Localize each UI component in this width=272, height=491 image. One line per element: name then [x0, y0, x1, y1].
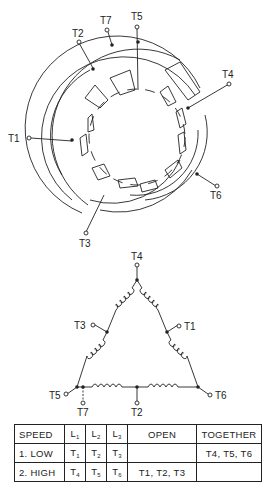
header-open: OPEN: [128, 425, 197, 444]
coil-bottom-right: [137, 384, 198, 387]
delta-label-t2: T2: [131, 407, 143, 418]
delta-connection-diagram: T4 T3 T1 T5 T7 T2 T6: [0, 240, 272, 420]
speed-connection-table: SPEED L1 L2 L3 OPEN TOGETHER 1. LOW T1 T…: [14, 424, 262, 482]
lead-t6: [197, 174, 216, 186]
coil-bottom-left: [77, 384, 137, 387]
node-dot: [135, 385, 139, 389]
lead-t2: [79, 43, 93, 68]
terminal-label-t7: T7: [100, 15, 112, 26]
stator-winding-diagram: T1 T2 T3 T4 T5 T6 T7: [0, 0, 272, 250]
node-dot: [196, 385, 200, 389]
terminal-t4-circle: [135, 263, 139, 267]
terminal-t7-circle: [105, 28, 109, 32]
terminal-label-t2: T2: [72, 28, 84, 39]
cell-l1: T4: [65, 463, 86, 482]
table-row: 2. HIGH T4 T5 T6 T1, T2, T3: [15, 463, 262, 482]
terminal-t3-circle: [84, 231, 88, 235]
pole-top: [110, 70, 135, 95]
delta-label-t5: T5: [49, 390, 61, 401]
node-dot: [165, 330, 169, 334]
winding-arc-5: [145, 115, 207, 200]
terminal-t2-circle: [77, 40, 81, 44]
terminal-t7-circle: [81, 401, 85, 405]
pole-bottom-left: [92, 164, 110, 180]
lead-t1: [167, 325, 178, 332]
junction-dot: [110, 43, 114, 47]
node-dot: [81, 385, 85, 389]
lead-t5: [137, 28, 138, 90]
lead-t3: [86, 195, 104, 232]
terminal-label-t5: T5: [131, 11, 143, 22]
table-row: 1. LOW T1 T2 T3 T4, T5, T6: [15, 444, 262, 463]
cell-together: [197, 463, 262, 482]
cell-l3: T6: [107, 463, 128, 482]
delta-label-t4: T4: [131, 251, 143, 262]
delta-label-t7: T7: [77, 407, 89, 418]
cell-l3: T3: [107, 444, 128, 463]
header-l1: L1: [65, 425, 86, 444]
coil-left-upper: [107, 280, 137, 332]
lead-t5: [67, 387, 77, 394]
node-dot: [105, 330, 109, 334]
cell-together: T4, T5, T6: [197, 444, 262, 463]
pole-right-lower: [165, 160, 182, 178]
lead-t3: [95, 325, 107, 332]
rotor-bore: [89, 89, 185, 185]
cell-l1: T1: [65, 444, 86, 463]
terminal-label-t6: T6: [210, 190, 222, 201]
junction-dot: [91, 67, 95, 71]
cell-speed: 2. HIGH: [15, 463, 65, 482]
lead-t6: [198, 387, 208, 394]
terminal-label-t4: T4: [222, 69, 234, 80]
junction-dot: [136, 40, 140, 44]
lead-t7: [108, 32, 112, 45]
node-dot: [135, 278, 139, 282]
table-header-row: SPEED L1 L2 L3 OPEN TOGETHER: [15, 425, 262, 444]
pole-bottom: [118, 178, 138, 188]
cell-l2: T5: [86, 463, 107, 482]
lead-t1: [31, 138, 72, 141]
cell-open: [128, 444, 197, 463]
pole-top-left: [85, 85, 108, 108]
terminal-t2-circle: [135, 401, 139, 405]
terminal-t6-circle: [208, 393, 212, 397]
delta-label-t3: T3: [74, 320, 86, 331]
cell-open: T1, T2, T3: [128, 463, 197, 482]
winding-arc-4: [51, 70, 90, 175]
header-speed: SPEED: [15, 425, 65, 444]
terminal-t1-circle: [27, 136, 31, 140]
coil-right-lower: [167, 332, 198, 387]
junction-dot: [195, 172, 199, 176]
terminal-t3-circle: [91, 323, 95, 327]
coil-right-upper: [137, 280, 167, 332]
terminal-label-t1: T1: [8, 133, 20, 144]
winding-arc-2: [52, 49, 180, 205]
delta-label-t6: T6: [215, 390, 227, 401]
header-together: TOGETHER: [197, 425, 262, 444]
terminal-t1-circle: [177, 324, 181, 328]
terminal-t5-circle: [135, 25, 139, 29]
header-l2: L2: [86, 425, 107, 444]
terminal-t5-circle: [64, 392, 68, 396]
terminal-t4-circle: [227, 82, 231, 86]
coil-left-lower: [77, 332, 107, 387]
terminal-t6-circle: [215, 184, 219, 188]
pole-left: [80, 134, 88, 156]
junction-dot: [70, 138, 74, 142]
delta-label-t1: T1: [184, 321, 196, 332]
header-l3: L3: [107, 425, 128, 444]
cell-l2: T2: [86, 444, 107, 463]
junction-dot: [186, 106, 190, 110]
node-dot: [75, 385, 79, 389]
cell-speed: 1. LOW: [15, 444, 65, 463]
